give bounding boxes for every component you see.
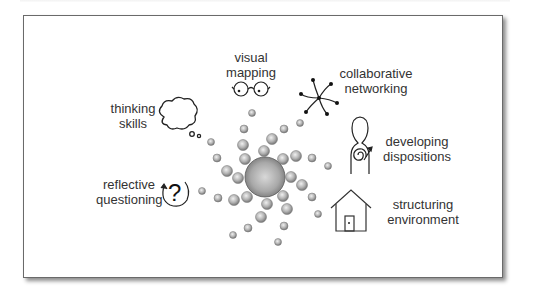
label-line: environment	[380, 212, 466, 227]
svg-text:?: ?	[168, 179, 181, 206]
label-line: mapping	[226, 65, 276, 80]
person-spiral-icon	[351, 117, 372, 174]
label-thinking-skills: thinking skills	[108, 101, 158, 131]
label-line: skills	[108, 116, 158, 131]
sphere-cluster	[199, 110, 332, 246]
network-icon	[299, 78, 339, 116]
label-line: thinking	[108, 101, 158, 116]
label-reflective-questioning: reflective questioning	[96, 177, 162, 207]
label-visual-mapping: visual mapping	[226, 50, 276, 80]
label-line: developing	[377, 134, 457, 149]
diagram-canvas: ?	[0, 0, 543, 295]
glasses-icon	[232, 82, 270, 96]
label-developing-dispositions: developing dispositions	[377, 134, 457, 164]
label-structuring-environment: structuring environment	[380, 197, 466, 227]
label-line: structuring	[380, 197, 466, 212]
label-line: dispositions	[377, 149, 457, 164]
label-collaborative-networking: collaborative networking	[336, 66, 416, 96]
question-cycle-icon: ?	[161, 179, 189, 206]
label-line: visual	[226, 50, 276, 65]
label-line: collaborative	[336, 66, 416, 81]
label-line: networking	[336, 81, 416, 96]
label-line: questioning	[96, 192, 162, 207]
label-line: reflective	[96, 177, 162, 192]
house-icon	[331, 190, 371, 231]
thought-cloud-icon	[159, 97, 200, 137]
